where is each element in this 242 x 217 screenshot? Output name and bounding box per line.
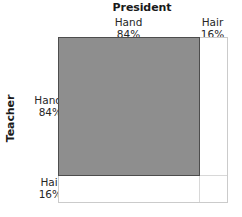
y-category-label-hand: Hand 84% bbox=[10, 94, 62, 118]
mosaic-chart: President Teacher Hand 84% Hair 16% Hand… bbox=[0, 0, 242, 217]
y-category-percent-hair: 16% bbox=[10, 188, 62, 200]
y-category-label-hair: Hair 16% bbox=[10, 176, 62, 200]
y-category-name-hair: Hair bbox=[10, 176, 62, 188]
y-category-percent-hand: 84% bbox=[10, 106, 62, 118]
y-category-name-hand: Hand bbox=[10, 94, 62, 106]
x-axis-title: President bbox=[58, 1, 226, 14]
x-category-name-hair: Hair bbox=[199, 16, 226, 28]
plot-area bbox=[58, 37, 228, 203]
x-category-name-hand: Hand bbox=[58, 16, 199, 28]
mosaic-cell-hand-hand bbox=[58, 37, 200, 176]
